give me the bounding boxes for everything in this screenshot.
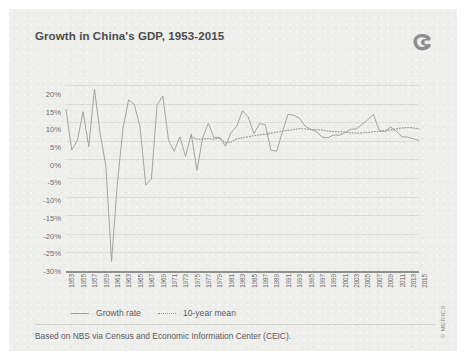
- y-tick-label: -25%: [27, 249, 61, 258]
- x-tick-label: 1969: [160, 274, 167, 288]
- series-line-10-year-mean: [191, 128, 419, 143]
- series-line-growth-rate: [66, 89, 419, 261]
- x-tick-label: 2003: [353, 274, 360, 288]
- x-tick-label: 1975: [194, 274, 201, 288]
- x-tick-label: 1961: [114, 274, 121, 288]
- footer-divider: [35, 324, 435, 325]
- x-axis-line: [66, 271, 419, 273]
- x-tick-label: 1997: [319, 274, 326, 288]
- x-tick-label: 2013: [410, 274, 417, 288]
- x-tick-label: 1989: [273, 274, 280, 288]
- chart-legend: Growth rate 10-year mean: [71, 306, 246, 320]
- x-tick-label: 1953: [68, 274, 75, 288]
- x-tick-label: 1985: [251, 274, 258, 288]
- x-tick-label: 1963: [125, 274, 132, 288]
- x-tick-label: 2001: [342, 274, 349, 288]
- legend-swatch-10-year-mean: [158, 313, 176, 314]
- x-tick-label: 1957: [91, 274, 98, 288]
- x-tick-label: 1993: [296, 274, 303, 288]
- x-tick-label: 1979: [216, 274, 223, 288]
- y-tick-label: -20%: [27, 231, 61, 240]
- plot-area: [66, 85, 419, 271]
- x-tick-label: 1995: [308, 274, 315, 288]
- legend-swatch-growth-rate: [71, 313, 89, 314]
- y-tick-label: -30%: [27, 267, 61, 276]
- chart-card: Growth in China's GDP, 1953-2015: [9, 9, 457, 351]
- y-tick-label: -15%: [27, 213, 61, 222]
- chart-figure: Growth in China's GDP, 1953-2015: [0, 0, 466, 360]
- chart-title: Growth in China's GDP, 1953-2015: [35, 30, 224, 42]
- x-tick-label: 1965: [137, 274, 144, 288]
- source-note: Based on NBS via Census and Economic Inf…: [35, 331, 291, 341]
- x-tick-label: 1955: [80, 274, 87, 288]
- merics-logo-icon: [409, 29, 435, 55]
- y-tick-label: 5%: [27, 143, 61, 152]
- x-tick-label: 1959: [103, 274, 110, 288]
- y-tick-label: 20%: [27, 89, 61, 98]
- y-tick-label: 10%: [27, 125, 61, 134]
- x-tick-label: 1967: [148, 274, 155, 288]
- y-tick-label: -10%: [27, 196, 61, 205]
- y-tick-label: 15%: [27, 107, 61, 116]
- x-tick-label: 2011: [399, 274, 406, 287]
- x-axis-ticks: 1953195519571959196119631965196719691971…: [66, 274, 419, 304]
- x-tick-label: 2007: [376, 274, 383, 288]
- y-tick-label: 0%: [27, 160, 61, 169]
- x-tick-label: 1987: [262, 274, 269, 288]
- y-tick-label: -5%: [27, 178, 61, 187]
- x-tick-label: 1991: [285, 274, 292, 288]
- series-layer: [66, 85, 419, 271]
- x-tick-label: 1981: [228, 274, 235, 288]
- x-tick-label: 1973: [182, 274, 189, 288]
- x-tick-label: 1983: [239, 274, 246, 288]
- x-tick-label: 2009: [387, 274, 394, 288]
- x-tick-label: 1977: [205, 274, 212, 288]
- legend-label-10-year-mean: 10-year mean: [183, 308, 236, 318]
- legend-label-growth-rate: Growth rate: [96, 308, 141, 318]
- x-tick-label: 1999: [330, 274, 337, 288]
- copyright-label: © MERICS: [439, 305, 446, 339]
- x-tick-label: 1971: [171, 274, 178, 288]
- x-tick-label: 2005: [364, 274, 371, 288]
- y-axis-ticks: 20%15%10%5%0%-5%-10%-15%-20%-25%-30%: [25, 85, 61, 271]
- x-tick-label: 2015: [421, 274, 428, 288]
